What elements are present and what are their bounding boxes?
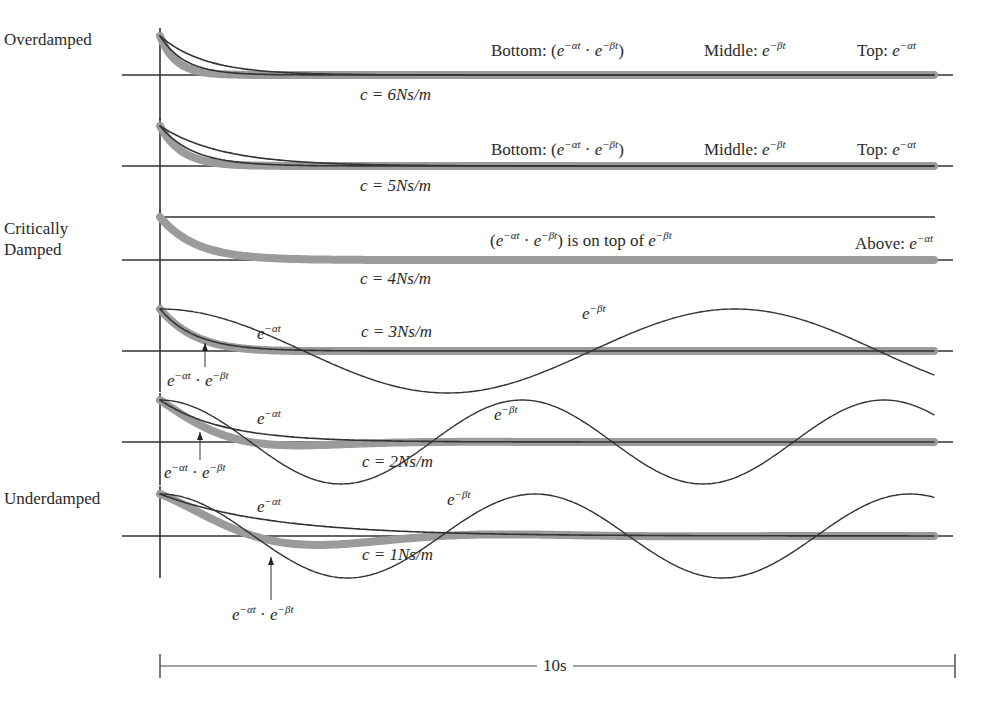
panel5-beta-label: e−βt bbox=[494, 404, 518, 423]
panel1-top-legend: Top: e−αt bbox=[857, 40, 916, 59]
panel1-middle-legend: Middle: e−βt bbox=[704, 40, 786, 59]
panel3-c-label: c = 4Ns/m bbox=[360, 270, 431, 287]
panel5-c-label: c = 2Ns/m bbox=[362, 453, 433, 470]
panel6-product-label: e−αt · e−βt bbox=[232, 604, 294, 623]
panel5-alpha-label: e−αt bbox=[257, 408, 281, 427]
panel5-product-label: e−αt · e−βt bbox=[164, 462, 226, 481]
panel6-beta-label: e−βt bbox=[447, 489, 471, 508]
panel3-above-legend: Above: e−αt bbox=[855, 233, 933, 252]
label-overdamped: Overdamped bbox=[4, 29, 92, 50]
panel6-alpha-label: e−αt bbox=[257, 496, 281, 515]
panel4-beta-label: e−βt bbox=[582, 303, 606, 322]
panel1-c-label: c = 6Ns/m bbox=[360, 86, 431, 103]
panel1-bottom-legend: Bottom: (e−αt · e−βt) bbox=[491, 40, 624, 59]
damping-figure bbox=[0, 0, 984, 706]
label-critically-damped: Critically Damped bbox=[4, 218, 68, 260]
panel4-alpha-label: e−αt bbox=[257, 323, 281, 342]
arrow-panel5-head-icon bbox=[197, 432, 203, 440]
panel2-top-legend: Top: e−αt bbox=[857, 139, 916, 158]
panel2-c-label: c = 5Ns/m bbox=[360, 177, 431, 194]
panel4-product-label: e−αt · e−βt bbox=[167, 370, 229, 389]
arrow-panel6-head-icon bbox=[268, 557, 274, 565]
panel2-middle-legend: Middle: e−βt bbox=[704, 139, 786, 158]
label-critically: Critically bbox=[4, 218, 68, 239]
panel6-c-label: c = 1Ns/m bbox=[362, 546, 433, 563]
label-damped: Damped bbox=[4, 239, 68, 260]
panel3-note: (e−αt · e−βt) is on top of e−βt bbox=[490, 230, 672, 249]
time-span-label: 10s bbox=[537, 657, 573, 674]
panel4-c-label: c = 3Ns/m bbox=[361, 323, 432, 340]
panel2-bottom-legend: Bottom: (e−αt · e−βt) bbox=[491, 139, 624, 158]
label-underdamped: Underdamped bbox=[4, 488, 100, 509]
